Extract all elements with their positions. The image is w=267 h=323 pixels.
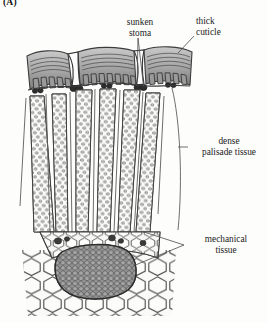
palisade-tissue-columns bbox=[20, 85, 164, 238]
palisade-column-4 bbox=[92, 85, 122, 237]
figure-xerophyte-leaf-cross-section: (A) (B) sunken stoma thick cuticle dense… bbox=[0, 0, 267, 323]
epidermis-ridge-1 bbox=[27, 51, 72, 90]
leaf-cross-section-drawing bbox=[0, 0, 267, 323]
epidermis-ridge-3 bbox=[144, 47, 192, 85]
epidermis-ridge-2 bbox=[78, 47, 136, 85]
bracket-dense-palisade bbox=[172, 88, 180, 230]
